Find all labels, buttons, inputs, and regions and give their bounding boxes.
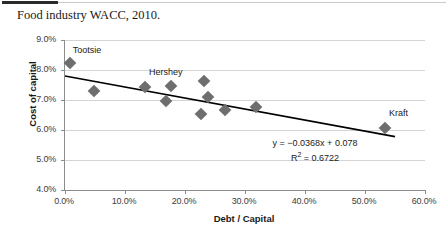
x-tick-label: 60.0% bbox=[400, 196, 446, 206]
r-squared-value: = 0.6722 bbox=[301, 153, 339, 163]
plot-area: TootsieHersheyKraft y = −0.0368x + 0.078… bbox=[64, 40, 425, 191]
y-tick-label: 7.0% bbox=[14, 94, 56, 104]
x-axis-tick bbox=[365, 190, 366, 194]
point-label: Hershey bbox=[149, 67, 183, 77]
r-squared-line: R2 = 0.6722 bbox=[215, 149, 415, 164]
header-rule-dark bbox=[2, 1, 58, 4]
x-axis-tick bbox=[65, 190, 66, 194]
chart-figure: Cost of capital Debt / Capital 4.0%5.0%6… bbox=[0, 30, 446, 231]
header-rule-light bbox=[58, 2, 446, 3]
x-tick-label: 20.0% bbox=[160, 196, 208, 206]
x-tick-label: 10.0% bbox=[100, 196, 148, 206]
figure-caption: Food industry WACC, 2010. bbox=[17, 8, 160, 23]
x-tick-label: 50.0% bbox=[340, 196, 388, 206]
x-tick-label: 0.0% bbox=[40, 196, 88, 206]
point-label: Kraft bbox=[389, 108, 408, 118]
x-axis-title: Debt / Capital bbox=[64, 213, 424, 224]
y-tick-label: 6.0% bbox=[14, 124, 56, 134]
trendline-equation: y = −0.0368x + 0.078 R2 = 0.6722 bbox=[215, 137, 415, 164]
x-axis-tick bbox=[245, 190, 246, 194]
x-tick-label: 30.0% bbox=[220, 196, 268, 206]
equation-line: y = −0.0368x + 0.078 bbox=[215, 137, 415, 149]
x-axis-tick bbox=[125, 190, 126, 194]
x-axis-tick bbox=[185, 190, 186, 194]
x-axis-tick bbox=[305, 190, 306, 194]
y-tick-label: 4.0% bbox=[14, 184, 56, 194]
trendline bbox=[65, 40, 425, 190]
y-tick-label: 5.0% bbox=[14, 154, 56, 164]
x-tick-label: 40.0% bbox=[280, 196, 328, 206]
point-label: Tootsie bbox=[73, 45, 102, 55]
y-tick-label: 9.0% bbox=[14, 34, 56, 44]
y-tick-label: 8.0% bbox=[14, 64, 56, 74]
x-axis-tick bbox=[425, 190, 426, 194]
